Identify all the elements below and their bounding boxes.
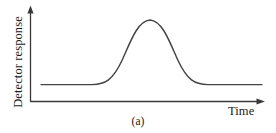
figure-caption: (a) [0, 114, 276, 128]
y-axis-group [27, 6, 33, 103]
y-axis-label: Detector response [10, 12, 26, 112]
x-axis-arrowhead-icon [257, 98, 266, 104]
detector-response-curve [41, 20, 262, 85]
y-axis-arrowhead-icon [27, 6, 33, 14]
figure-container: Detector response Time (a) [0, 0, 276, 133]
